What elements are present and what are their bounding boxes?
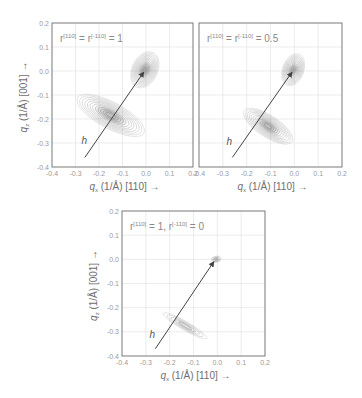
- y-tick-label: 0.0: [39, 68, 49, 75]
- x-tick-label: -0.4: [193, 170, 205, 177]
- x-tick-label: 0.1: [236, 359, 246, 366]
- x-tick-label: -0.1: [187, 359, 199, 366]
- x-tick-label: 0.0: [289, 170, 299, 177]
- x-tick-label: 0.1: [313, 170, 323, 177]
- y-tick-label: -0.2: [107, 304, 119, 311]
- panel-parameter-label: r[110] = 1, r[-110] = 0: [130, 221, 204, 232]
- origin-peak-contours: [125, 47, 165, 93]
- diffuse-contours: [161, 310, 209, 343]
- x-tick-label: 0.2: [260, 359, 270, 366]
- h-vector-arrow: [155, 262, 213, 349]
- x-axis-label: qx (1/Å) [110] →: [237, 180, 307, 193]
- y-axis-label: qz (1/Å) [001] →: [87, 250, 100, 321]
- y-tick-label: 0.1: [39, 44, 49, 51]
- x-tick-label: -0.3: [140, 359, 152, 366]
- y-axis-label: qz (1/Å) [001] →: [17, 62, 30, 133]
- x-axis-label: qx (1/Å) [110] →: [160, 369, 230, 382]
- y-tick-label: -0.3: [37, 140, 49, 147]
- diffuse-contours: [238, 102, 298, 151]
- y-tick-label: 0.1: [109, 232, 119, 239]
- x-tick-label: 0.2: [337, 170, 347, 177]
- x-tick-label: 0.0: [212, 359, 222, 366]
- x-tick-label: -0.2: [164, 359, 176, 366]
- y-tick-label: 0.2: [39, 20, 49, 27]
- h-vector-label: h: [226, 136, 232, 147]
- panel-3: hr[110] = 1, r[-110] = 0-0.4-0.3-0.2-0.1…: [87, 208, 270, 383]
- x-tick-label: 0.1: [165, 170, 175, 177]
- panel-parameter-label: r[110] = r[-110] = 0.5: [207, 33, 279, 44]
- h-vector-label: h: [81, 135, 87, 146]
- y-tick-label: -0.3: [107, 328, 119, 335]
- panel-1: hr[110] = r[-110] = 1-0.4-0.3-0.2-0.10.0…: [17, 20, 198, 194]
- y-tick-label: -0.4: [37, 164, 49, 171]
- panel-parameter-label: r[110] = r[-110] = 1: [60, 33, 123, 44]
- x-tick-label: -0.3: [217, 170, 229, 177]
- y-tick-label: 0.0: [109, 256, 119, 263]
- y-tick-label: 0.2: [109, 208, 119, 215]
- h-vector-arrow: [232, 72, 292, 157]
- y-tick-label: -0.4: [107, 353, 119, 360]
- x-tick-label: 0.0: [141, 170, 151, 177]
- x-axis-label: qx (1/Å) [110] →: [89, 180, 159, 193]
- x-tick-label: -0.4: [46, 170, 58, 177]
- origin-peak-contours: [277, 50, 309, 89]
- x-tick-label: -0.4: [116, 359, 128, 366]
- figure: hr[110] = r[-110] = 1-0.4-0.3-0.2-0.10.0…: [0, 0, 362, 398]
- x-tick-label: -0.1: [264, 170, 276, 177]
- panel-2: hr[110] = r[-110] = 0.5-0.4-0.3-0.2-0.10…: [193, 23, 347, 193]
- y-tick-label: -0.1: [107, 280, 119, 287]
- h-vector-label: h: [149, 329, 155, 340]
- grid: [52, 23, 193, 167]
- x-tick-label: -0.3: [69, 170, 81, 177]
- x-tick-label: -0.2: [241, 170, 253, 177]
- grid: [199, 23, 342, 167]
- y-tick-label: -0.1: [37, 92, 49, 99]
- x-tick-label: -0.2: [93, 170, 105, 177]
- y-tick-label: -0.2: [37, 116, 49, 123]
- x-tick-label: -0.1: [116, 170, 128, 177]
